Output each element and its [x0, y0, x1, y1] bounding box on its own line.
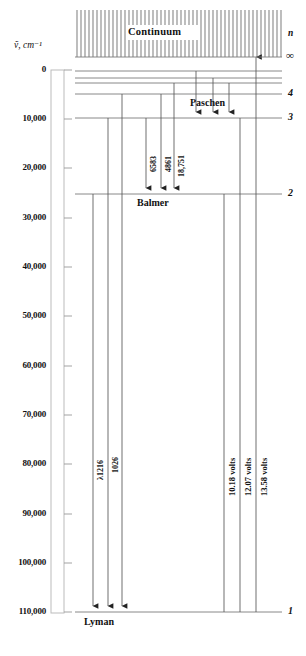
continuum-label: Continuum	[128, 27, 181, 38]
series-label-balmer: Balmer	[137, 198, 169, 208]
tick-label-110000: 110,000	[0, 607, 46, 616]
level-label-1: 1	[288, 606, 293, 616]
energy-scale-bar	[51, 70, 64, 613]
tick-label-50000: 50,000	[0, 311, 46, 320]
tick-label-40000: 40,000	[0, 262, 46, 271]
tick-label-60000: 60,000	[0, 361, 46, 370]
hydrogen-energy-level-diagram: ṽ, cm⁻¹ 0 10,000 20,000 30,000 40,000 50…	[0, 0, 306, 656]
balmer-wavelength-1: 6583	[150, 156, 158, 172]
balmer-transitions	[146, 83, 174, 188]
lyman-wavelength-2: 1026	[112, 457, 120, 473]
quantum-number-header: n	[288, 29, 293, 39]
tick-label-20000: 20,000	[0, 163, 46, 172]
series-label-paschen: Paschen	[190, 98, 225, 108]
series-label-lyman: Lyman	[84, 617, 114, 627]
tick-label-0: 0	[0, 65, 46, 74]
y-axis-title: ṽ, cm⁻¹	[14, 41, 42, 51]
balmer-wavelength-2: 4861	[165, 156, 173, 172]
tick-label-100000: 100,000	[0, 558, 46, 567]
level-label-3: 3	[288, 112, 293, 122]
excitation-potential-arrows	[224, 57, 256, 612]
excitation-potential-1: 10.18 volts	[228, 458, 237, 496]
excitation-potential-2: 12.07 volts	[244, 458, 253, 496]
tick-label-80000: 80,000	[0, 459, 46, 468]
lyman-wavelength-1: λ1216	[97, 460, 105, 480]
level-label-4: 4	[288, 88, 293, 98]
tick-label-70000: 70,000	[0, 410, 46, 419]
tick-label-90000: 90,000	[0, 509, 46, 518]
level-label-infinity: ∞	[286, 50, 294, 61]
axis-ticks	[64, 70, 72, 612]
tick-label-30000: 30,000	[0, 213, 46, 222]
level-label-2: 2	[288, 188, 293, 198]
energy-levels	[75, 71, 282, 612]
lyman-transitions	[93, 94, 122, 606]
excitation-potential-3: 13.58 volts	[260, 458, 269, 496]
balmer-wavelength-3: 18,751	[178, 155, 186, 177]
tick-label-10000: 10,000	[0, 114, 46, 123]
